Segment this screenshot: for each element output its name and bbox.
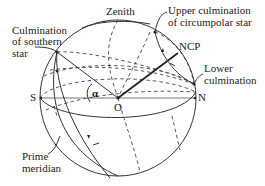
label-alpha: α bbox=[92, 87, 99, 99]
vertical-dashed-5 bbox=[172, 116, 180, 150]
arrow-icon bbox=[87, 135, 90, 139]
tick-mark bbox=[93, 143, 99, 145]
leader-southern bbox=[35, 47, 57, 52]
label-upper-2: of circumpolar star bbox=[168, 16, 252, 28]
label-north: N bbox=[198, 91, 206, 103]
label-upper-1: Upper culmination bbox=[168, 4, 251, 16]
label-prime-2: meridian bbox=[22, 162, 62, 174]
vertical-dashed-2 bbox=[118, 32, 150, 98]
label-ncp: NCP bbox=[179, 40, 200, 52]
label-lower-2: culmination bbox=[204, 74, 257, 86]
zenith-arc bbox=[82, 21, 150, 28]
celestial-sphere-diagram: Zenith Culmination of southern star Uppe… bbox=[0, 0, 265, 186]
label-lower-1: Lower bbox=[204, 62, 233, 74]
label-southern-2: of southern bbox=[12, 35, 62, 47]
point-north bbox=[194, 97, 196, 99]
point-origin bbox=[116, 96, 119, 99]
label-prime-1: Prime bbox=[22, 150, 48, 162]
point-south bbox=[40, 97, 42, 99]
leader-upper bbox=[155, 12, 167, 32]
label-south: S bbox=[30, 91, 36, 103]
leader-lower bbox=[194, 74, 203, 84]
leader-prime bbox=[48, 136, 60, 154]
diurnal-circle-mid bbox=[50, 67, 194, 84]
label-southern-3: star bbox=[12, 47, 28, 59]
label-origin: O bbox=[114, 101, 122, 113]
label-zenith: Zenith bbox=[106, 5, 135, 17]
prime-meridian bbox=[54, 52, 118, 176]
